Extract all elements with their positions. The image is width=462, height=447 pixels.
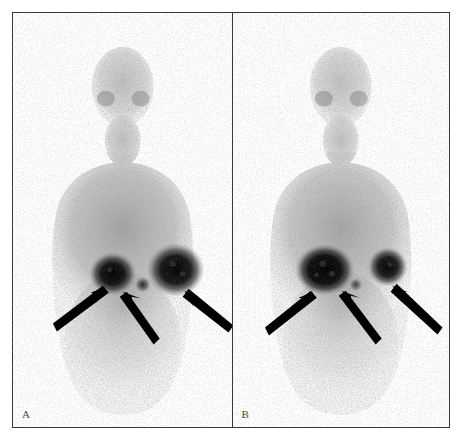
figure-frame: A	[12, 12, 450, 428]
panel-label-a: A	[22, 408, 30, 420]
scintigram-panel-b: B	[233, 13, 450, 427]
scintigram-image-a	[13, 13, 232, 427]
scintigram-panel-a: A	[13, 13, 233, 427]
panel-label-b: B	[242, 408, 250, 420]
scintigram-image-b	[233, 13, 450, 427]
